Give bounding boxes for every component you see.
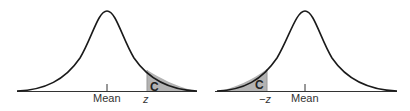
figure-right-tail: Mean z C	[17, 11, 197, 105]
mean-label: Mean	[291, 92, 319, 104]
area-label-c: C	[255, 78, 264, 92]
neg-z-label: −z	[259, 93, 271, 105]
z-label: z	[142, 93, 149, 105]
area-label-c: C	[150, 80, 159, 94]
bell-curve	[217, 11, 397, 91]
mean-label: Mean	[93, 92, 121, 104]
normal-distribution-figures: Mean z C Mean −z C	[0, 0, 410, 111]
figure-left-tail: Mean −z C	[215, 11, 397, 105]
bell-curve	[17, 11, 197, 91]
